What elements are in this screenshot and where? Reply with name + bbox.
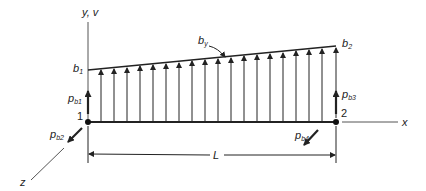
pb1-label: pb1 <box>67 92 82 105</box>
z-axis-label: z <box>19 176 26 188</box>
pb3-label: pb3 <box>341 88 356 101</box>
dimension-line-left <box>89 154 210 155</box>
x-axis-label: x <box>401 116 408 128</box>
pb4-label: pb4 <box>294 129 309 142</box>
b2-label: b2 <box>342 37 352 50</box>
node-1-dot <box>85 119 91 125</box>
pb2-arrow <box>68 128 82 142</box>
load-top-line <box>88 46 336 70</box>
pb2-label: pb2 <box>49 128 64 141</box>
distributed-load-arrows <box>101 48 336 122</box>
node-2-label: 2 <box>341 107 347 119</box>
dimension-label: L <box>213 149 219 161</box>
svg-text:by: by <box>198 34 208 48</box>
z-axis <box>31 148 64 180</box>
b1-label: b1 <box>73 62 83 75</box>
beam-load-diagram: y, v x z by b1 b2 pb1 <box>0 0 426 191</box>
by-leader-arrow <box>209 46 225 57</box>
y-axis-label: y, v <box>81 6 100 18</box>
by-label: by <box>198 34 225 57</box>
node-1-label: 1 <box>77 110 83 122</box>
node-2-dot <box>333 119 339 125</box>
